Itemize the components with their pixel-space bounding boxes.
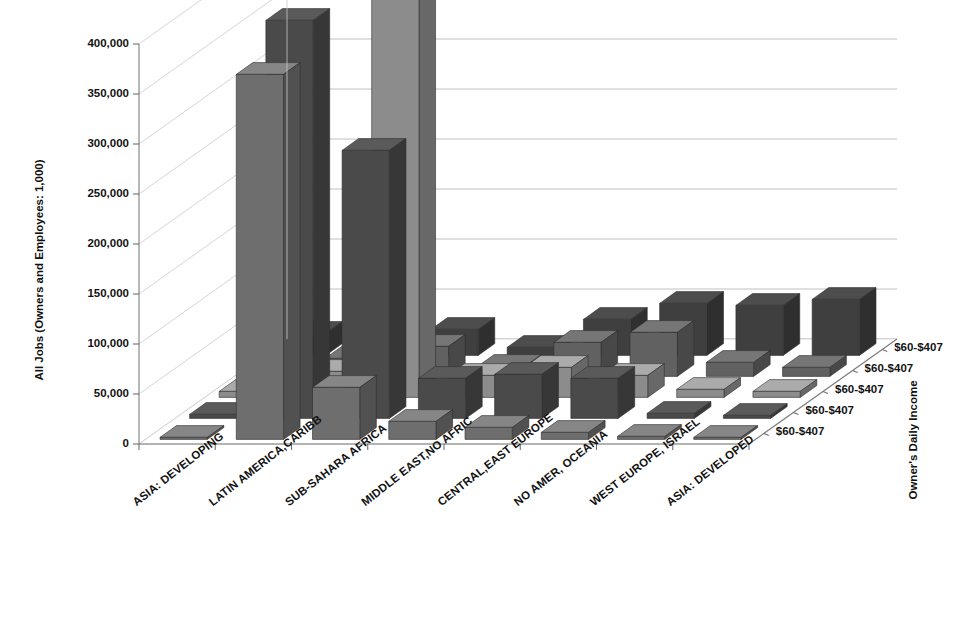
chart-container: 050,000100,000150,000200,000250,000300,0… bbox=[0, 0, 955, 634]
z-axis-tick-label: $60-$407 bbox=[805, 404, 854, 416]
z-axis-title: Owner's Daily Income bbox=[907, 380, 919, 499]
y-axis-tick-label: 300,000 bbox=[87, 137, 129, 149]
labels-layer: 050,000100,000150,000200,000250,000300,0… bbox=[87, 37, 942, 508]
y-axis-tick-label: 200,000 bbox=[87, 237, 129, 249]
y-axis-title: All Jobs (Owners and Employees: 1,000) bbox=[33, 159, 45, 380]
y-axis-tick-label: 150,000 bbox=[87, 287, 129, 299]
z-axis-tick-label: $60-$407 bbox=[894, 341, 943, 353]
y-axis-tick-label: 400,000 bbox=[87, 37, 129, 49]
y-axis-tick-label: 250,000 bbox=[87, 187, 129, 199]
bar-2-1 bbox=[236, 63, 300, 440]
bar-7-5 bbox=[736, 294, 800, 356]
y-axis-tick-label: 50,000 bbox=[94, 387, 129, 399]
y-axis-tick-label: 350,000 bbox=[87, 87, 129, 99]
bar-5-2 bbox=[495, 363, 559, 419]
y-axis-tick-label: 100,000 bbox=[87, 337, 129, 349]
z-axis-tick-label: $60-$407 bbox=[776, 425, 825, 437]
bar-3-1 bbox=[313, 376, 377, 440]
bar-8-5 bbox=[812, 288, 876, 356]
bar-chart-3d: 050,000100,000150,000200,000250,000300,0… bbox=[0, 0, 955, 634]
z-axis-tick-label: $60-$407 bbox=[865, 362, 914, 374]
z-axis-tick-label: $60-$407 bbox=[835, 383, 884, 395]
bar-6-2 bbox=[571, 367, 635, 419]
y-axis-tick-label: 0 bbox=[123, 437, 129, 449]
